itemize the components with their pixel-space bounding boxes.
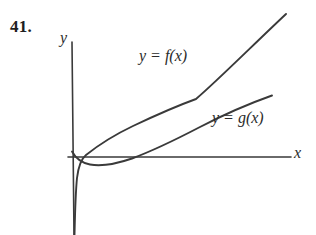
curve-label-g: y = g(x) <box>212 110 264 126</box>
y-axis <box>72 42 74 235</box>
axis-label-y: y <box>60 30 67 46</box>
graph-canvas <box>0 0 316 235</box>
curve-label-f: y = f(x) <box>139 48 187 64</box>
curve-g <box>72 96 272 166</box>
axis-label-x: x <box>294 145 301 161</box>
problem-number: 41. <box>10 18 32 35</box>
figure-container: 41. y x y = f(x) y = g(x) <box>0 0 316 235</box>
